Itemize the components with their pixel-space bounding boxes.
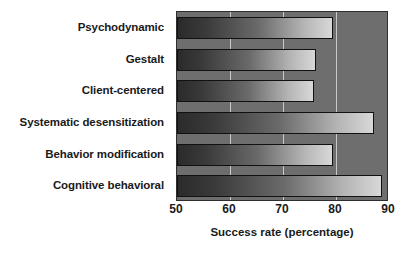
bar: [177, 80, 314, 102]
bar: [177, 175, 382, 197]
x-tick-label-90: 90: [381, 202, 394, 216]
category-label: Psychodynamic: [0, 21, 164, 33]
gridline-80: [336, 12, 337, 200]
category-label: Client-centered: [0, 84, 164, 96]
category-axis: PsychodynamicGestaltClient-centeredSyste…: [0, 11, 172, 201]
category-label: Behavior modification: [0, 148, 164, 160]
plot-area: [176, 11, 388, 201]
bar: [177, 112, 374, 134]
x-tick-label-80: 80: [328, 202, 341, 216]
category-label: Cognitive behavioral: [0, 179, 164, 191]
x-tick-label-50: 50: [169, 202, 182, 216]
bar-chart: PsychodynamicGestaltClient-centeredSyste…: [0, 0, 414, 253]
x-tick-label-70: 70: [275, 202, 288, 216]
bar: [177, 49, 316, 71]
bar: [177, 144, 333, 166]
category-label: Gestalt: [0, 53, 164, 65]
gridline-70: [283, 12, 284, 200]
x-axis-title: Success rate (percentage): [176, 226, 388, 238]
gridline-60: [230, 12, 231, 200]
x-tick-label-60: 60: [222, 202, 235, 216]
category-label: Systematic desensitization: [0, 116, 164, 128]
bar: [177, 17, 333, 39]
x-axis: 5060708090: [176, 202, 388, 220]
